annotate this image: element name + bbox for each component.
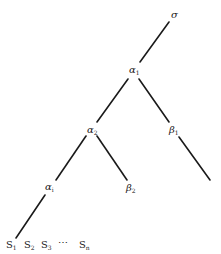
edge-alpha2-alphai — [56, 136, 86, 180]
node-alpha2: α2 — [87, 124, 98, 136]
leaf-sn: Sn — [79, 239, 90, 251]
leaf-s2: S2 — [24, 239, 35, 251]
edge-sigma-alpha1 — [140, 22, 169, 62]
edge-alpha2-beta2 — [97, 136, 127, 180]
node-alpha1: α1 — [129, 64, 140, 76]
tree-diagram: σ α1 α2 β1 αi β2 S1 S2 S3 ⋯ Sn — [0, 0, 221, 254]
leaf-s3: S3 — [41, 239, 52, 251]
edge-alphai-s1 — [16, 195, 45, 238]
node-beta2: β2 — [125, 182, 136, 194]
edge-beta1-end — [179, 137, 210, 180]
edge-alpha1-alpha2 — [97, 79, 128, 122]
edge-alpha1-beta1 — [139, 79, 169, 122]
node-alphai: αi — [45, 181, 54, 193]
node-beta1: β1 — [168, 124, 179, 136]
leaf-ellipsis: ⋯ — [58, 237, 68, 248]
node-sigma: σ — [171, 9, 179, 20]
leaf-s1: S1 — [6, 239, 17, 251]
